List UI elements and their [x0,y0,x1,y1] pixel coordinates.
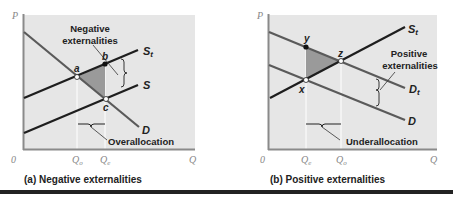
point-label-x: x [298,84,305,95]
point-y [303,44,308,49]
point-c [104,97,109,102]
panel-positive-externalities: P 0 Q Qe Qo Positive externalities St Dt… [256,10,438,185]
curve-label-d-b: D [408,115,416,127]
annotation-negative-line1: Negative [70,23,110,34]
annotation-positive-line1: Positive [391,48,427,59]
origin-label-a: 0 [11,154,16,165]
tick-q-e-a: Qe [100,154,110,167]
point-label-a: a [74,63,80,74]
x-axis-label-a: Q [189,154,197,165]
tick-q-o-b: Qo [336,154,347,167]
point-b [102,61,107,66]
y-axis-label-b: P [256,10,263,21]
tick-q-o-a: Qo [72,154,83,167]
annotation-negative-line2: externalities [62,35,117,46]
tick-q-e-b: Qe [301,154,311,167]
caption-b: (b) Positive externalities [270,174,385,185]
panel-negative-externalities: P 0 Q Qo Qe Negative externalities St S … [11,10,197,185]
curve-label-d-a: D [142,124,150,136]
x-axis-label-b: Q [430,154,438,165]
point-label-z: z [337,48,343,59]
bottom-divider [0,190,453,194]
underallocation-label: Underallocation [346,136,418,147]
point-label-y: y [303,33,310,44]
point-a [75,75,80,80]
externalities-diagram: P 0 Q Qo Qe Negative externalities St S … [0,0,453,197]
point-z [339,59,344,64]
point-x [304,78,309,83]
point-label-c: c [103,102,109,113]
curve-label-s-a: S [143,79,151,91]
annotation-positive-line2: externalities [382,60,437,71]
plot-area-b [269,15,437,149]
overallocation-label: Overallocation [108,136,174,147]
caption-a: (a) Negative externalities [24,174,142,185]
y-axis-label-a: P [11,10,18,21]
point-label-b: b [102,51,108,62]
origin-label-b: 0 [260,154,265,165]
